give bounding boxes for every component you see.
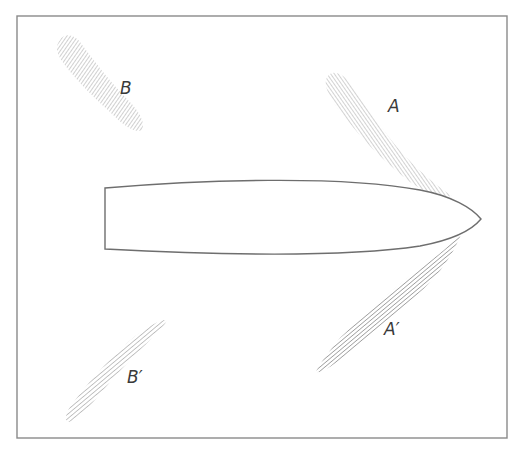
region-b-prime (66, 320, 166, 422)
label-a: A (388, 98, 400, 115)
projectile-outline (105, 180, 481, 254)
region-a (326, 73, 452, 197)
label-a-prime: A′ (384, 321, 400, 338)
diagram-figure (0, 0, 516, 457)
label-b-prime: B′ (127, 369, 143, 386)
label-b: B (120, 80, 132, 97)
